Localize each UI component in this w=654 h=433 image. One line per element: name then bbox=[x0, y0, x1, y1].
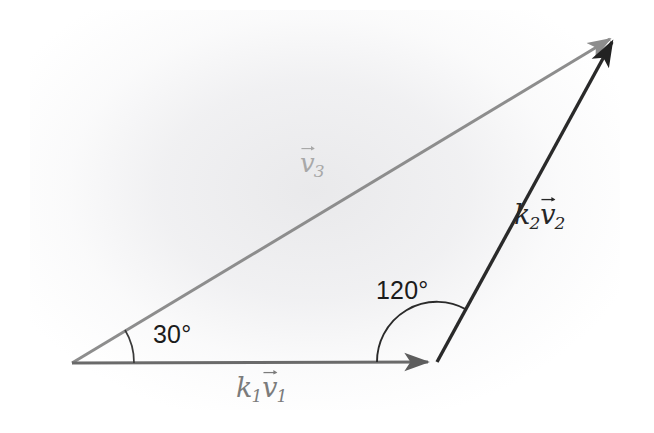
v2-base: v bbox=[540, 199, 555, 230]
v3-subscript: 3 bbox=[314, 161, 325, 181]
v2-vector-group: v bbox=[540, 201, 555, 228]
v3-base: v bbox=[300, 148, 315, 178]
figure-canvas: v 3 k1 v 1 k2 v 2 30° 120° bbox=[0, 0, 654, 433]
v1-vector-group: v bbox=[262, 374, 277, 401]
v3-vector-group: v bbox=[300, 150, 315, 176]
v2-subscript: 2 bbox=[554, 213, 565, 233]
k1-base: k bbox=[236, 372, 252, 403]
k2-subscript: 2 bbox=[529, 213, 540, 233]
vector-label-v3: v 3 bbox=[300, 150, 325, 180]
k1-subscript: 1 bbox=[251, 386, 262, 406]
vector-label-k2v2: k2 v 2 bbox=[514, 201, 565, 232]
vector-line-k1v1 bbox=[72, 362, 428, 363]
vector-label-k1v1: k1 v 1 bbox=[236, 374, 287, 405]
angle-label-120: 120° bbox=[376, 276, 429, 305]
v1-subscript: 1 bbox=[276, 386, 287, 406]
angle-label-30: 30° bbox=[153, 320, 191, 349]
v1-base: v bbox=[262, 372, 277, 403]
k2-base: k bbox=[514, 199, 530, 230]
angle-arc-30 bbox=[125, 330, 134, 363]
